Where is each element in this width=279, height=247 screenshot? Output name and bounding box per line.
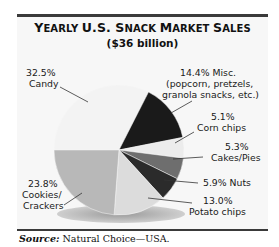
label-cookies-pct: 23.8% bbox=[28, 178, 58, 189]
label-cakes-pct: 5.3% bbox=[225, 141, 249, 152]
label-misc-line2: (popcorn, pretzels, bbox=[166, 78, 253, 89]
label-cakes-name: Cakes/Pies bbox=[211, 152, 261, 163]
source-label: Source: bbox=[19, 233, 59, 244]
bottom-rule bbox=[17, 229, 268, 231]
label-misc-line3: granola snacks, etc.) bbox=[162, 89, 259, 100]
label-potato-pct: 13.0% bbox=[203, 195, 233, 206]
label-cookies-name1: Cookies/ bbox=[22, 189, 62, 200]
source-note: Source: Natural Choice—USA. bbox=[19, 233, 170, 244]
pie-slices bbox=[54, 85, 184, 215]
label-potato-name: Potato chips bbox=[189, 206, 246, 217]
source-text: Natural Choice—USA. bbox=[59, 233, 169, 244]
label-nuts: 5.9% Nuts bbox=[203, 177, 251, 188]
label-cookies-name2: Crackers bbox=[23, 200, 64, 211]
label-corn-name: Corn chips bbox=[197, 122, 246, 133]
label-candy-name: Candy bbox=[29, 78, 58, 89]
label-candy-pct: 32.5% bbox=[26, 67, 56, 78]
label-corn-pct: 5.1% bbox=[211, 111, 235, 122]
label-misc-line1: 14.4% Misc. bbox=[180, 67, 236, 78]
